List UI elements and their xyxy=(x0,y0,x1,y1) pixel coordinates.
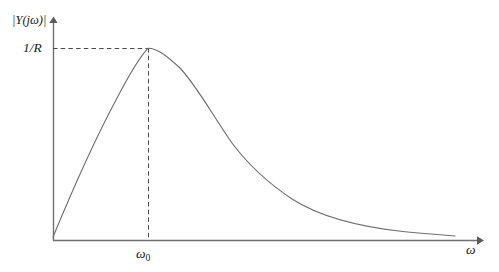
x-tick-label-resonant-frequency: ω0 xyxy=(136,247,150,262)
admittance-curve xyxy=(53,48,455,237)
y-axis-arrowhead xyxy=(49,17,57,24)
y-tick-label-peak-value: 1/R xyxy=(23,41,42,55)
x-tick-label-base: ω xyxy=(136,246,146,261)
y-axis-label: |Y(jω)| xyxy=(12,14,46,27)
x-axis-label: ω xyxy=(466,243,476,257)
x-tick-label-subscript: 0 xyxy=(146,252,151,263)
x-axis xyxy=(53,236,484,245)
y-axis xyxy=(49,17,57,241)
figure-canvas: |Y(jω)| 1/R ω0 ω xyxy=(0,0,499,272)
resonance-plot xyxy=(0,0,499,272)
x-axis-arrowhead xyxy=(477,236,484,245)
